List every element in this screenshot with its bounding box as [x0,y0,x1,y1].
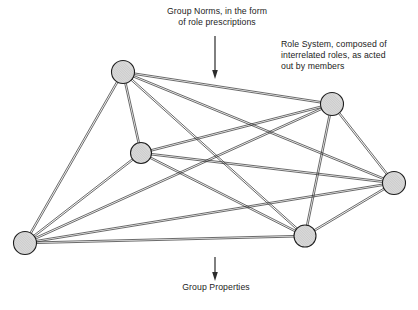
diagram-canvas: Group Norms, in the form of role prescri… [0,0,418,310]
label-role-system: Role System, composed of interrelated ro… [281,39,417,73]
edge-n2-n4 [150,106,323,152]
edge-n1-n3 [29,80,118,234]
edge-n4-n5 [338,111,389,175]
edge-n3-n5 [35,184,385,242]
nodes-layer [2,61,416,255]
arrow-to-group-properties [212,257,218,281]
arrow-to-network [212,36,218,79]
edge-n3-n4 [34,107,323,239]
label-group-norms: Group Norms, in the form of role prescri… [124,6,310,28]
edge-n3-n6 [35,235,296,243]
edge-n1-n2 [124,82,139,145]
member-node-far-right [371,172,416,195]
member-node-bottom-left [2,232,47,255]
edge-n2-n5 [150,153,384,182]
edge-n5-n6 [313,187,386,231]
edge-n1-n4 [133,73,322,104]
edge-n4-n6 [306,114,331,227]
member-node-top-left [100,61,145,84]
label-group-properties: Group Properties [146,282,286,293]
edge-n1-n5 [132,75,385,180]
edge-n2-n3 [32,158,134,238]
